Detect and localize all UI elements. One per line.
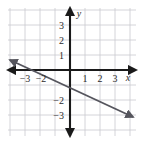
x-axis-label: x (125, 72, 131, 83)
x-tick-label-neg2: −2 (36, 73, 47, 84)
y-tick-label-2: 2 (59, 35, 64, 46)
x-tick-label-neg3: −3 (20, 73, 31, 84)
y-tick-label-neg3: −3 (53, 110, 64, 121)
y-tick-label-3: 3 (59, 20, 64, 31)
y-axis-label: y (76, 8, 82, 19)
y-tick-label-neg2: −2 (53, 95, 64, 106)
coordinate-plane-svg: −3 −2 1 2 3 3 2 1 −2 −3 x y (0, 0, 143, 144)
plotted-line (10, 60, 133, 117)
grid-lines (8, 8, 136, 136)
x-tick-label-3: 3 (113, 73, 118, 84)
x-tick-label-1: 1 (83, 73, 88, 84)
graph-figure: −3 −2 1 2 3 3 2 1 −2 −3 x y (0, 0, 143, 144)
y-tick-label-1: 1 (59, 50, 64, 61)
x-tick-label-2: 2 (98, 73, 103, 84)
